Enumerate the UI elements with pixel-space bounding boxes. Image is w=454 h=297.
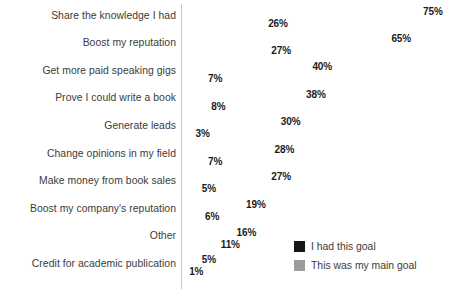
chart-row: Share the knowledge I had75%26% (0, 4, 454, 32)
bar-value-label: 3% (195, 129, 209, 140)
bar-value-label: 11% (221, 240, 240, 251)
bar-value-label: 30% (281, 117, 301, 128)
bar-value-label: 40% (312, 62, 332, 73)
chart-row: Generate leads30%3% (0, 114, 454, 142)
legend-swatch-icon-0 (294, 241, 305, 252)
bar-value-label: 7% (208, 74, 222, 85)
category-label: Change opinions in my field (0, 147, 176, 160)
bar-group-series-1: 5% (182, 184, 198, 195)
legend-swatch-icon-1 (294, 260, 305, 271)
bar-value-label: 27% (271, 46, 291, 57)
category-label: Make money from book sales (0, 174, 176, 187)
bar-group-series-0: 30% (182, 117, 277, 128)
legend-label-0: I had this goal (311, 238, 376, 255)
bar-value-label: 7% (208, 157, 222, 168)
category-label: Other (0, 229, 176, 242)
chart-row: Get more paid speaking gigs40%7% (0, 59, 454, 87)
bar-group-series-0: 28% (182, 145, 270, 156)
category-label: Boost my reputation (0, 36, 176, 49)
bar-group-series-1: 8% (182, 101, 207, 112)
chart-row: Change opinions in my field28%7% (0, 142, 454, 170)
bar-group-series-1: 6% (182, 212, 201, 223)
bar-value-label: 16% (237, 228, 257, 239)
bar-value-label: 28% (274, 145, 294, 156)
bar-group-series-1: 26% (182, 19, 264, 30)
category-label: Boost my company's reputation (0, 202, 176, 215)
bar-group-series-1: 27% (182, 46, 267, 57)
bar-group-series-1: 7% (182, 157, 204, 168)
bar-value-label: 75% (423, 7, 443, 18)
chart-row: Other16%11% (0, 225, 454, 253)
bar-group-series-0: 65% (182, 34, 387, 45)
legend-label-1: This was my main goal (311, 257, 417, 274)
chart-row: Boost my company's reputation19%6% (0, 197, 454, 225)
horizontal-bar-chart: Share the knowledge I had75%26%Boost my … (0, 0, 454, 297)
bar-value-label: 8% (211, 102, 225, 113)
bar-value-label: 27% (271, 172, 291, 183)
chart-row: Make money from book sales27%5% (0, 170, 454, 198)
chart-row: Boost my reputation65%27% (0, 32, 454, 60)
bar-value-label: 5% (202, 255, 216, 266)
bar-value-label: 6% (205, 212, 219, 223)
category-label: Prove I could write a book (0, 91, 176, 104)
bar-group-series-0: 16% (182, 227, 233, 238)
bar-group-series-0: 40% (182, 62, 308, 73)
category-label: Share the knowledge I had (0, 9, 176, 22)
bar-value-label: 38% (306, 90, 326, 101)
bar-group-series-0: 27% (182, 172, 267, 183)
category-label: Generate leads (0, 119, 176, 132)
bar-value-label: 26% (268, 19, 288, 30)
chart-row: Prove I could write a book38%8% (0, 87, 454, 115)
bar-group-series-0: 75% (182, 7, 419, 18)
bar-group-series-1: 3% (182, 129, 191, 140)
bar-group-series-1: 11% (182, 239, 217, 250)
category-label: Get more paid speaking gigs (0, 64, 176, 77)
bar-value-label: 1% (189, 267, 203, 278)
bar-value-label: 65% (391, 34, 411, 45)
bar-value-label: 5% (202, 184, 216, 195)
bar-value-label: 19% (246, 200, 266, 211)
bar-group-series-0: 19% (182, 200, 242, 211)
bar-group-series-1: 7% (182, 74, 204, 85)
bar-group-series-1: 1% (182, 267, 185, 278)
bar-group-series-0: 38% (182, 89, 302, 100)
category-label: Credit for academic publication (0, 257, 176, 270)
bar-group-series-0: 5% (182, 255, 198, 266)
